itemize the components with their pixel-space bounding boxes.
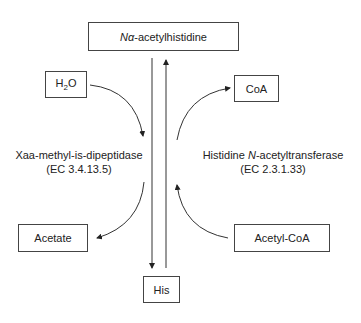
water-o: O [68, 77, 77, 89]
coa-label: CoA [246, 83, 267, 95]
enzyme-right-italic: N [248, 149, 256, 161]
acetylcoa-in-arrow [177, 185, 228, 238]
node-coa: CoA [234, 75, 279, 102]
enzyme-left-ec: (EC 3.4.13.5) [10, 162, 148, 176]
enzyme-right: Histidine N-acetyltransferase (EC 2.3.1.… [198, 148, 348, 176]
node-his: His [143, 276, 180, 303]
node-label-suffix: -acetylhistidine [134, 31, 207, 43]
node-label-prefix: Nα [120, 31, 134, 43]
node-n-alpha-acetylhistidine: Nα-acetylhistidine [88, 22, 239, 51]
node-water: H2O [45, 71, 87, 98]
enzyme-right-pre: Histidine [203, 149, 248, 161]
acetate-out-arrow [97, 182, 144, 238]
water-in-arrow [90, 85, 143, 136]
coa-out-arrow [177, 88, 230, 140]
acetylcoa-label: Acetyl-CoA [254, 232, 309, 244]
his-label: His [154, 284, 170, 296]
enzyme-right-name: Histidine N-acetyltransferase [198, 148, 348, 162]
enzyme-right-ec: (EC 2.3.1.33) [198, 162, 348, 176]
enzyme-left-name: Xaa-methyl-is-dipeptidase [10, 148, 148, 162]
enzyme-right-post: -acetyltransferase [256, 149, 343, 161]
acetate-label: Acetate [34, 232, 71, 244]
node-acetyl-coa: Acetyl-CoA [234, 224, 330, 252]
node-acetate: Acetate [18, 224, 88, 252]
enzyme-left: Xaa-methyl-is-dipeptidase (EC 3.4.13.5) [10, 148, 148, 176]
